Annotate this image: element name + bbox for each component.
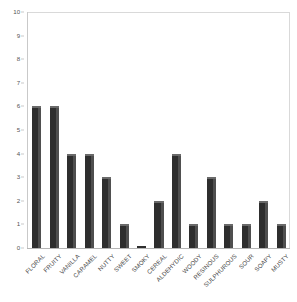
y-axis-tick-mark: [21, 177, 24, 178]
y-axis-tick-label: 9: [2, 32, 20, 38]
bar-top-cap: [67, 154, 76, 156]
bar-slot: [50, 12, 59, 248]
bar-side-face: [178, 154, 181, 248]
bar-slot: [102, 12, 111, 248]
y-axis-tick-mark: [21, 35, 24, 36]
bar: [277, 224, 286, 248]
bar-slot: [154, 12, 163, 248]
bar: [137, 246, 146, 248]
bar-slot: [120, 12, 129, 248]
y-axis-tick-mark: [21, 200, 24, 201]
y-axis-tick-mark: [21, 224, 24, 225]
bar-side-face: [283, 224, 286, 248]
bar-top-cap: [50, 106, 59, 108]
y-axis-tick-mark: [21, 106, 24, 107]
bars-container: [28, 12, 290, 248]
bar-side-face: [230, 224, 233, 248]
bar: [85, 154, 94, 248]
bar-slot: [277, 12, 286, 248]
bar-top-cap: [154, 201, 163, 203]
y-axis-tick-label: 10: [2, 9, 20, 15]
y-axis-tick-label: 2: [2, 198, 20, 204]
y-axis-tick-label: 3: [2, 174, 20, 180]
bar-side-face: [161, 201, 164, 248]
bar: [67, 154, 76, 248]
bar: [50, 106, 59, 248]
y-axis-tick-label: 5: [2, 127, 20, 133]
bar-side-face: [248, 224, 251, 248]
bar: [172, 154, 181, 248]
bar-top-cap: [102, 177, 111, 179]
y-axis-tick-label: 0: [2, 245, 20, 251]
bar-side-face: [73, 154, 76, 248]
bar: [189, 224, 198, 248]
bar: [154, 201, 163, 248]
bar-chart: 012345678910 FLORALFRUITYVANILLACARAMELN…: [0, 0, 297, 302]
x-axis-category-label: SOAPY: [251, 252, 271, 272]
y-axis-tick-labels: 012345678910: [0, 0, 27, 302]
y-axis-tick-label: 8: [2, 56, 20, 62]
bar-slot: [67, 12, 76, 248]
bar-slot: [224, 12, 233, 248]
bar-side-face: [108, 177, 111, 248]
bar: [207, 177, 216, 248]
bar-slot: [172, 12, 181, 248]
y-axis-tick-label: 4: [2, 150, 20, 156]
x-axis-line: [27, 248, 290, 249]
bar-top-cap: [32, 106, 41, 108]
x-axis-category-label-text: MUSTY: [270, 252, 291, 273]
bar-side-face: [265, 201, 268, 248]
y-axis-tick-mark: [21, 12, 24, 13]
y-axis-tick-label: 6: [2, 103, 20, 109]
bar-top-cap: [207, 177, 216, 179]
bar-top-cap: [172, 154, 181, 156]
bar-slot: [137, 12, 146, 248]
y-axis-tick-mark: [21, 153, 24, 154]
bar-slot: [189, 12, 198, 248]
y-axis-tick-mark: [21, 130, 24, 131]
bar-top-cap: [85, 154, 94, 156]
bar-side-face: [56, 106, 59, 248]
bar-slot: [242, 12, 251, 248]
bar: [242, 224, 251, 248]
bar-top-cap: [277, 224, 286, 226]
bar-slot: [259, 12, 268, 248]
bar: [259, 201, 268, 248]
bar-top-cap: [224, 224, 233, 226]
bar-top-cap: [120, 224, 129, 226]
x-axis-category-labels: FLORALFRUITYVANILLACARAMELNUTTYSWEETSMOK…: [28, 250, 290, 302]
bar-top-cap: [259, 201, 268, 203]
y-axis-tick-mark: [21, 59, 24, 60]
bar-slot: [32, 12, 41, 248]
bar-slot: [207, 12, 216, 248]
y-axis-tick-mark: [21, 82, 24, 83]
bar-side-face: [195, 224, 198, 248]
bar-side-face: [38, 106, 41, 248]
bar-side-face: [213, 177, 216, 248]
bar: [224, 224, 233, 248]
bar-top-cap: [242, 224, 251, 226]
y-axis-tick-label: 1: [2, 221, 20, 227]
bar: [120, 224, 129, 248]
bar-side-face: [91, 154, 94, 248]
bar: [102, 177, 111, 248]
bar: [32, 106, 41, 248]
bar-top-cap: [189, 224, 198, 226]
y-axis-tick-mark: [21, 248, 24, 249]
bar-slot: [85, 12, 94, 248]
bar-side-face: [126, 224, 129, 248]
y-axis-tick-label: 7: [2, 80, 20, 86]
